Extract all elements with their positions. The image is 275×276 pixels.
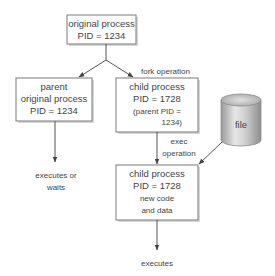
child-parent-pid-value: 1234)	[162, 118, 183, 127]
fork-exec-diagram: original process PID = 1234 fork operati…	[0, 0, 275, 276]
parent-process-box: parent original process PID = 1234	[16, 78, 94, 123]
exec-child-label: child process	[129, 168, 185, 179]
child-process-pid: PID = 1728	[133, 93, 181, 104]
file-cylinder-icon: file	[221, 94, 261, 146]
child-parent-pid-label: (parent PID =	[133, 107, 181, 116]
parent-label: parent	[41, 81, 68, 92]
exec-label-line2: operation	[162, 149, 195, 158]
parent-result-line2: waits	[46, 183, 65, 192]
original-process-box: original process PID = 1234	[67, 15, 138, 46]
child-result-label: executes	[141, 259, 173, 268]
exec-and-data-label: and data	[141, 206, 173, 215]
parent-pid: PID = 1234	[30, 105, 78, 116]
file-label: file	[235, 119, 247, 130]
original-process-pid: PID = 1234	[78, 30, 126, 41]
fork-operation-label: fork operation	[141, 67, 190, 76]
file-to-exec-arrow	[199, 142, 222, 164]
parent-original-label: original process	[21, 93, 88, 104]
exec-new-code-label: new code	[140, 194, 175, 203]
parent-result-line1: executes or	[35, 171, 77, 180]
exec-process-box: child process PID = 1728 new code and da…	[116, 165, 200, 222]
exec-child-pid: PID = 1728	[133, 180, 181, 191]
child-process-label: child process	[129, 81, 185, 92]
exec-label-line1: exec	[171, 137, 188, 146]
child-process-box: child process PID = 1728 (parent PID = 1…	[116, 78, 200, 134]
fork-arrows	[79, 44, 133, 77]
original-process-label: original process	[68, 18, 135, 29]
